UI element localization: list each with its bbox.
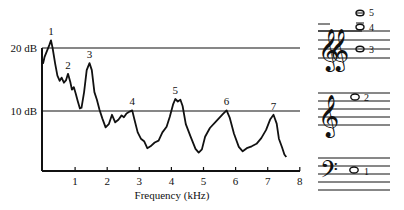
x-tick-label: 3 — [137, 175, 143, 187]
y-label-10db: 10 dB — [10, 105, 37, 117]
spectrum-figure: 20 dB 10 dB 12345678 Frequency (kHz) 123… — [0, 0, 404, 210]
x-tick-label: 5 — [201, 175, 207, 187]
note-label: 4 — [369, 22, 374, 33]
note-label: 1 — [364, 166, 369, 177]
spectrum-curve — [43, 40, 286, 157]
x-tick-label: 8 — [297, 175, 303, 187]
peak-label: 5 — [173, 84, 179, 96]
peak-label: 4 — [129, 95, 135, 107]
peak-label: 6 — [224, 95, 230, 107]
peak-label: 7 — [271, 100, 277, 112]
note-whole-icon — [350, 167, 358, 173]
note-label: 2 — [364, 92, 369, 103]
treble-clef-icon: 𝄞 — [328, 29, 349, 72]
peak-label: 3 — [87, 48, 93, 60]
x-tick-label: 4 — [169, 175, 175, 187]
peak-label: 1 — [48, 25, 54, 37]
x-tick-label: 2 — [104, 175, 110, 187]
bass-clef-icon: 𝄢 — [320, 157, 338, 188]
y-label-20db: 20 dB — [10, 42, 37, 54]
treble-clef-icon: 𝄞 — [318, 95, 339, 138]
note-label: 3 — [369, 44, 374, 55]
x-tick-label: 6 — [233, 175, 239, 187]
note-whole-icon — [356, 24, 364, 30]
x-axis-title: Frequency (kHz) — [135, 189, 210, 202]
x-tick-label: 1 — [72, 175, 78, 187]
note-whole-icon — [351, 94, 359, 100]
note-label: 5 — [369, 7, 374, 18]
peak-label: 2 — [65, 59, 71, 71]
x-tick-label: 7 — [265, 175, 271, 187]
